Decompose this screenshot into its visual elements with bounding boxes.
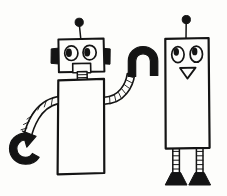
robots-illustration [0, 0, 227, 196]
pupil-right-icon [84, 48, 90, 57]
drawing-canvas: Two hand-drawn cartoon robots black ink … [0, 0, 227, 196]
torso-shape [58, 79, 105, 174]
pupil-left-icon [66, 49, 72, 58]
pupil-left-icon-right [174, 48, 179, 56]
pupil-right-icon-right [192, 48, 197, 56]
antenna-bulb-icon [75, 18, 83, 26]
antenna-bulb-icon-right [182, 16, 190, 24]
